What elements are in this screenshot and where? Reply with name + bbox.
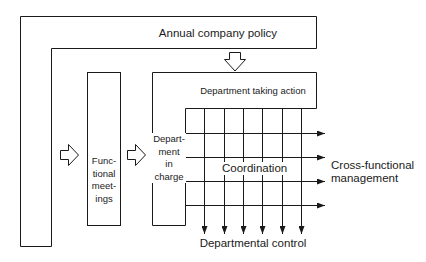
functional-line-3: meet-: [87, 180, 121, 193]
policy-down-arrow-icon: [225, 53, 246, 72]
department-in-charge-label: Depart- ment in charge: [152, 133, 186, 183]
cross-line-1: Cross-functional: [331, 159, 414, 172]
functional-meetings-label: Func- tional meet- ings: [87, 155, 121, 205]
functional-line-4: ings: [87, 193, 121, 206]
coordination-label: Coordination: [222, 162, 284, 175]
annual-company-policy-label: Annual company policy: [120, 27, 316, 40]
charge-line-2: ment: [152, 146, 186, 159]
department-taking-action-label: Department taking action: [190, 85, 316, 98]
to-functional-arrow-icon: [61, 145, 79, 166]
charge-line-4: charge: [152, 171, 186, 184]
policy-frame: [21, 17, 317, 247]
to-department-arrow-icon: [128, 145, 146, 166]
functional-line-2: tional: [87, 168, 121, 181]
cross-functional-management-label: Cross-functional management: [331, 159, 414, 185]
charge-line-3: in: [152, 158, 186, 171]
departmental-control-label: Departmental control: [195, 237, 311, 250]
functional-line-1: Func-: [87, 155, 121, 168]
cross-line-2: management: [331, 172, 414, 185]
charge-line-1: Depart-: [152, 133, 186, 146]
